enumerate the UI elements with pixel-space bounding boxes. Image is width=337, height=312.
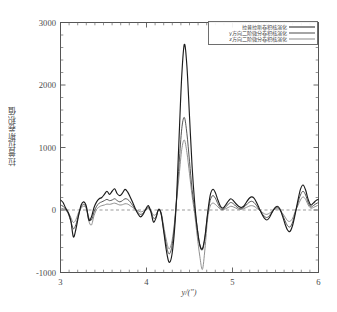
y-tick-label: -1000 bbox=[14, 268, 56, 278]
y-tick-label: 1000 bbox=[14, 143, 56, 153]
chart-figure: 拉普拉斯卷积值 y/(″) 3000200010000-1000 3456 拉普… bbox=[0, 0, 337, 312]
chart-legend: 拉普拉斯卷积核演化 y方向二阶微分卷积核演化 z方向二阶微分卷积核演化 bbox=[208, 21, 318, 45]
legend-label-y-second-derivative: y方向二阶微分卷积核演化 bbox=[229, 30, 287, 36]
plot-frame bbox=[61, 23, 319, 273]
legend-item-z-second-derivative: z方向二阶微分卷积核演化 bbox=[212, 36, 315, 42]
data-series-layer bbox=[61, 44, 319, 269]
x-tick-label: 6 bbox=[316, 277, 320, 287]
x-tick-label: 3 bbox=[58, 277, 62, 287]
legend-label-z-second-derivative: z方向二阶微分卷积核演化 bbox=[229, 36, 287, 42]
legend-swatch-y-second-derivative bbox=[289, 30, 315, 35]
laplacian-convolution-line-chart bbox=[0, 0, 337, 312]
x-tick-label: 4 bbox=[144, 277, 148, 287]
y-tick-label: 3000 bbox=[14, 18, 56, 28]
y-tick-label: 0 bbox=[14, 205, 56, 215]
y-tick-label: 2000 bbox=[14, 80, 56, 90]
axis-ticks bbox=[61, 23, 319, 273]
legend-swatch-laplacian bbox=[289, 24, 315, 29]
x-axis-label-text: y/(″) bbox=[60, 288, 318, 297]
legend-swatch-z-second-derivative bbox=[289, 37, 315, 42]
legend-label-laplacian: 拉普拉斯卷积核演化 bbox=[242, 24, 287, 30]
x-tick-label: 5 bbox=[230, 277, 234, 287]
